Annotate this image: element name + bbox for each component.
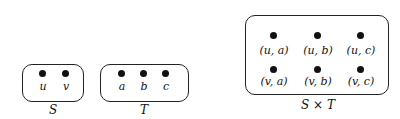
element-a-label: a [119, 80, 126, 93]
pair-ua-dot [270, 32, 277, 39]
pair-ub-label: (u, b) [303, 44, 333, 57]
element-c-label: c [163, 80, 169, 93]
pair-uc-dot [357, 32, 364, 39]
set-t-caption: T [140, 103, 148, 117]
set-product-caption: S × T [301, 98, 335, 112]
pair-ub-dot [314, 32, 321, 39]
set-s-box [22, 64, 84, 102]
element-c-dot [162, 70, 169, 77]
pair-ua-label: (u, a) [259, 44, 288, 57]
element-b-label: b [140, 80, 147, 93]
pair-vb-label: (v, b) [304, 75, 332, 88]
element-a-dot [118, 70, 125, 77]
pair-uc-label: (u, c) [347, 44, 376, 57]
pair-va-dot [270, 66, 277, 73]
element-v-label: v [63, 80, 69, 93]
element-u-label: u [39, 80, 46, 93]
pair-vc-dot [357, 66, 364, 73]
element-u-dot [39, 70, 46, 77]
element-b-dot [140, 70, 147, 77]
pair-va-label: (v, a) [260, 75, 287, 88]
set-s-caption: S [49, 103, 57, 117]
element-v-dot [62, 70, 69, 77]
pair-vc-label: (v, c) [348, 75, 375, 88]
pair-vb-dot [314, 66, 321, 73]
